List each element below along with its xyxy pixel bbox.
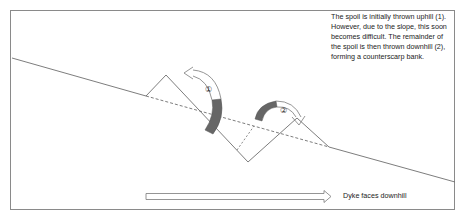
explanation-text: The spoil is initially thrown uphill (1)… — [331, 12, 453, 62]
ditch-interior-dashed — [237, 126, 254, 150]
arrow-downhill-throw: ② — [255, 101, 305, 125]
explanation-note: The spoil is initially thrown uphill (1)… — [331, 12, 453, 62]
arrow-label-2: ② — [280, 106, 287, 115]
direction-caption: Dyke faces downhill — [343, 191, 407, 200]
ground-line-uphill — [12, 58, 146, 96]
direction-arrow — [146, 191, 331, 203]
arrow-label-1: ① — [205, 85, 212, 94]
ground-line-downhill — [329, 147, 455, 182]
